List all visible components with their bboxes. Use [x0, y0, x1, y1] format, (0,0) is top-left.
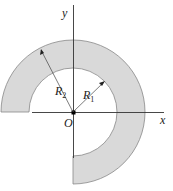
outer-radius-label: R2: [54, 84, 66, 100]
inner-radius-arrowhead: [99, 81, 105, 86]
x-axis-label: x: [159, 113, 166, 127]
origin-label: O: [64, 116, 73, 130]
y-axis-label: y: [61, 6, 68, 20]
diagram-canvas: y x O R2 R1: [0, 0, 173, 191]
inner-radius-label: R1: [82, 88, 94, 104]
